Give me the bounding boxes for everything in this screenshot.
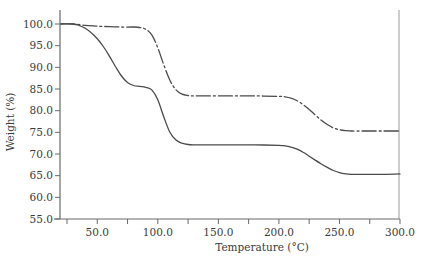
y-tick-label: 55.0 [30, 213, 53, 225]
data-series [61, 24, 400, 174]
y-axis-title: Weight (%) [4, 93, 16, 152]
y-tick-label: 60.0 [30, 191, 53, 203]
x-tick-label: 150.0 [203, 226, 233, 238]
solid-series-line [61, 24, 400, 174]
x-axis-ticks: 50.0100.0150.0200.0250.0300.0 [67, 219, 415, 238]
y-tick-label: 65.0 [30, 169, 53, 181]
y-tick-label: 95.0 [30, 39, 53, 51]
x-tick-label: 250.0 [324, 226, 354, 238]
tga-chart: 55.060.065.070.075.080.085.090.095.0100.… [0, 0, 421, 260]
x-tick-label: 200.0 [264, 226, 294, 238]
y-tick-label: 85.0 [30, 83, 53, 95]
axes [54, 10, 400, 219]
y-tick-label: 100.0 [23, 18, 53, 30]
y-tick-label: 70.0 [30, 148, 53, 160]
y-tick-label: 90.0 [30, 61, 53, 73]
y-tick-label: 75.0 [30, 126, 53, 138]
x-tick-label: 100.0 [143, 226, 173, 238]
x-tick-label: 300.0 [385, 226, 415, 238]
y-axis-ticks: 55.060.065.070.075.080.085.090.095.0100.… [23, 18, 60, 225]
y-tick-label: 80.0 [30, 104, 53, 116]
x-tick-label: 50.0 [86, 226, 109, 238]
dashdot-series-line [61, 24, 400, 131]
x-axis-title: Temperature (°C) [215, 241, 309, 253]
